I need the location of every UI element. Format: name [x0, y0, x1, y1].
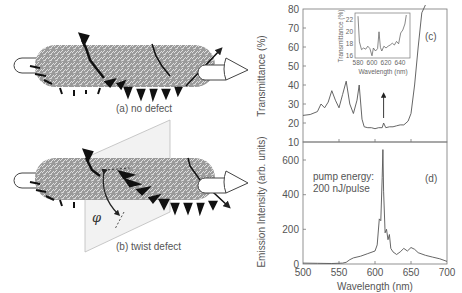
svg-text:550: 550: [331, 267, 348, 278]
phi-angle-label: φ: [92, 210, 102, 225]
svg-text:20: 20: [288, 118, 300, 129]
right-arrowhead-icon: [224, 58, 248, 80]
emission-line: [303, 150, 447, 264]
svg-text:10: 10: [288, 137, 300, 148]
svg-text:80: 80: [288, 4, 300, 15]
svg-text:650: 650: [403, 267, 420, 278]
svg-text:20: 20: [346, 28, 354, 35]
inset-frame: [355, 13, 410, 58]
svg-text:30: 30: [288, 99, 300, 110]
panel-a-no-defect: (a) no defect: [14, 34, 248, 114]
svg-text:16: 16: [346, 52, 354, 59]
inset-y-axis-title: Transmittance (%): [337, 10, 345, 63]
svg-text:700: 700: [439, 267, 456, 278]
right-arrowhead-icon: [224, 171, 248, 193]
inset-x-axis-title: Wavelength (nm): [358, 68, 407, 76]
svg-text:200: 200: [282, 224, 299, 235]
inset-x-tick-labels: 580 600 620 640: [353, 59, 406, 66]
svg-text:70: 70: [288, 23, 300, 34]
svg-text:50: 50: [288, 61, 300, 72]
svg-text:60: 60: [288, 42, 300, 53]
svg-text:22: 22: [346, 16, 354, 23]
figure-canvas: (a) no defect φ (b) twist defect 80: [0, 0, 462, 293]
panel-d-label: (d): [425, 173, 437, 184]
panel-a-caption: (a) no defect: [116, 103, 172, 114]
panel-c-label: (c): [425, 31, 437, 42]
svg-text:580: 580: [353, 59, 364, 66]
svg-text:620: 620: [381, 59, 392, 66]
panel-b-caption: (b) twist defect: [116, 241, 181, 252]
y-tick-labels: 0 200 400 600: [282, 155, 299, 270]
chart-d-emission: 0 200 400 600 500 550 600 650 700 Wavele…: [256, 136, 456, 292]
y-tick-labels: 80 70 60 50 40 30 20 10: [288, 4, 300, 148]
y-axis-title: Transmittance (%): [256, 35, 267, 116]
chart-c-transmittance: 80 70 60 50 40 30 20 10 Transmittance (%…: [256, 4, 447, 148]
inset-chart: 22 20 18 16 580 600 620 640 Wavelength (…: [337, 10, 410, 76]
pump-energy-line2: 200 nJ/pulse: [313, 183, 370, 194]
pump-energy-line1: pump energy:: [313, 171, 374, 182]
svg-text:600: 600: [367, 267, 384, 278]
right-rod-icon: [198, 65, 226, 80]
inset-y-tick-labels: 22 20 18 16: [346, 16, 354, 59]
y-axis-title: Emission Intensity (arb. units): [256, 136, 267, 267]
svg-text:400: 400: [282, 189, 299, 200]
svg-text:500: 500: [295, 267, 312, 278]
panel-b-twist-defect: φ (b) twist defect: [14, 120, 248, 252]
right-rod-icon: [198, 178, 226, 193]
x-axis-title: Wavelength (nm): [337, 281, 413, 292]
svg-text:18: 18: [346, 40, 354, 47]
svg-text:600: 600: [367, 59, 378, 66]
svg-text:640: 640: [395, 59, 406, 66]
plot-frame: [303, 142, 447, 264]
svg-text:40: 40: [288, 80, 300, 91]
svg-text:600: 600: [282, 155, 299, 166]
x-tick-labels: 500 550 600 650 700: [295, 267, 456, 278]
